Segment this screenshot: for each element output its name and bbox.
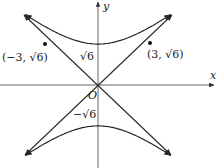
diagram-canvas bbox=[0, 0, 219, 168]
point-right-label: (3, √6) bbox=[147, 49, 184, 60]
origin-label: O bbox=[88, 90, 97, 101]
lower-vertex-label: −√6 bbox=[73, 109, 96, 120]
upper-vertex-label: √6 bbox=[80, 51, 94, 62]
point-left-label: (−3, √6) bbox=[2, 52, 48, 63]
x-axis-label: x bbox=[210, 70, 216, 81]
point-left-dot bbox=[43, 42, 47, 46]
point-right-dot bbox=[148, 41, 152, 45]
hyperbola-diagram: y x O √6 −√6 (−3, √6) (3, √6) bbox=[0, 0, 219, 168]
y-axis-label: y bbox=[103, 1, 109, 12]
